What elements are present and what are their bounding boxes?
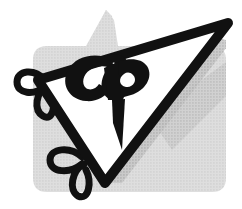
logo-artwork: CP monogram triangle logo bbox=[0, 0, 242, 209]
logo-canvas: CP monogram triangle logo bbox=[0, 0, 242, 209]
panel-peak bbox=[86, 10, 118, 46]
